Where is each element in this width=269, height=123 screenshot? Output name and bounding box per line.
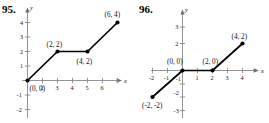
y-tick-label-neg2-96: -2	[174, 89, 179, 96]
y-axis-label-96: y	[184, 6, 188, 13]
data-point-4-2-96	[240, 41, 244, 45]
graph-96: x y -2 -1 1 2 3 4 3 2 -1 -2 -3 (0, 0) (2…	[135, 0, 269, 123]
point-label-4-2-96: (4, 2)	[232, 33, 248, 41]
y-tick-label-1-95: 1	[20, 62, 23, 69]
x-axis-arrow-96	[254, 68, 259, 72]
x-tick-label-5-95: 5	[85, 84, 88, 91]
y-tick-label-neg2-95: -2	[17, 106, 22, 113]
x-tick-label-neg2-96: -2	[149, 74, 154, 81]
point-label-6-4-95: (6, 4)	[105, 11, 121, 19]
figure-panel-96: 96. x y -2 -1 1 2	[135, 0, 269, 123]
y-tick-label-2-95: 2	[20, 48, 23, 55]
data-point-6-4-95	[115, 20, 119, 24]
point-label-4-2-95: (4, 2)	[77, 58, 93, 66]
point-label-neg2-neg2-96: (-2, -2)	[142, 102, 163, 110]
x-axis-label-95: x	[123, 77, 127, 84]
data-polyline-95	[28, 23, 118, 81]
data-point-0-0-96	[180, 68, 184, 72]
y-tick-label-4-95: 4	[20, 19, 23, 26]
data-point-2-0-96	[210, 68, 214, 72]
y-tick-label-2-96: 2	[175, 40, 178, 47]
point-label-2-2-95: (2, 2)	[47, 41, 63, 49]
y-tick-label-3-95: 3	[20, 33, 23, 40]
point-label-0-0-96: (0, 0)	[167, 58, 183, 66]
figure-panel-95: 95. x y 2 3 4	[0, 0, 135, 123]
x-tick-label-4-96: 4	[241, 74, 244, 81]
y-axis-label-95: y	[29, 4, 33, 11]
x-tick-label-6-95: 6	[100, 84, 103, 91]
y-tick-label-3-96: 3	[175, 23, 178, 30]
y-tick-label-neg1-95: -1	[17, 91, 22, 98]
data-point-2-2-95	[55, 49, 59, 53]
data-point-0-0-95	[25, 78, 29, 82]
x-tick-label-3-96: 3	[226, 74, 229, 81]
x-axis-label-96: x	[260, 67, 264, 74]
x-tick-label-1-96: 1	[196, 74, 199, 81]
y-tick-label-neg3-96: -3	[174, 107, 179, 114]
data-point-4-2-95	[85, 49, 89, 53]
x-tick-label-2-96: 2	[211, 74, 214, 81]
point-label-0-0-95: (0, 0)	[30, 85, 46, 93]
graph-95: x y 2 3 4 5 6 4 3 2 1 -1 -2 (0, 0) (2, 2…	[0, 0, 135, 123]
point-label-2-0-96: (2, 0)	[203, 58, 219, 66]
data-point-neg2-neg2-96	[150, 95, 154, 99]
x-tick-label-neg1-96: -1	[164, 74, 169, 81]
x-tick-label-3-95: 3	[55, 84, 58, 91]
x-tick-label-4-95: 4	[70, 84, 73, 91]
